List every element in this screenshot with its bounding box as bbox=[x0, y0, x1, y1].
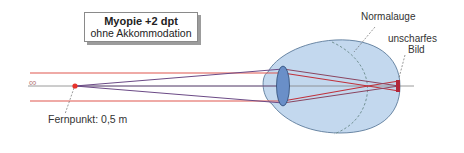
blurred-image-mark bbox=[396, 80, 400, 92]
far-point-dot bbox=[72, 83, 77, 88]
blurred-image-leader bbox=[399, 55, 405, 78]
blurred-image-label-line1: unscharfes bbox=[388, 33, 437, 44]
myopia-diagram: Myopie +2 dpt ohne Akkommodation ∞ Fernp… bbox=[0, 0, 464, 153]
far-point-label: Fernpunkt: 0,5 m bbox=[48, 113, 127, 125]
title-box: Myopie +2 dpt ohne Akkommodation bbox=[84, 12, 198, 42]
infinity-symbol: ∞ bbox=[29, 76, 37, 88]
optics-illustration bbox=[0, 0, 464, 153]
title-box-heading: Myopie +2 dpt bbox=[85, 15, 197, 27]
blurred-image-label-line2: Bild bbox=[408, 44, 425, 55]
far-point-ray-top bbox=[75, 69, 283, 86]
title-box-subtitle: ohne Akkommodation bbox=[85, 27, 197, 39]
lens bbox=[277, 66, 290, 106]
normal-eye-label: Normalauge bbox=[361, 11, 415, 22]
